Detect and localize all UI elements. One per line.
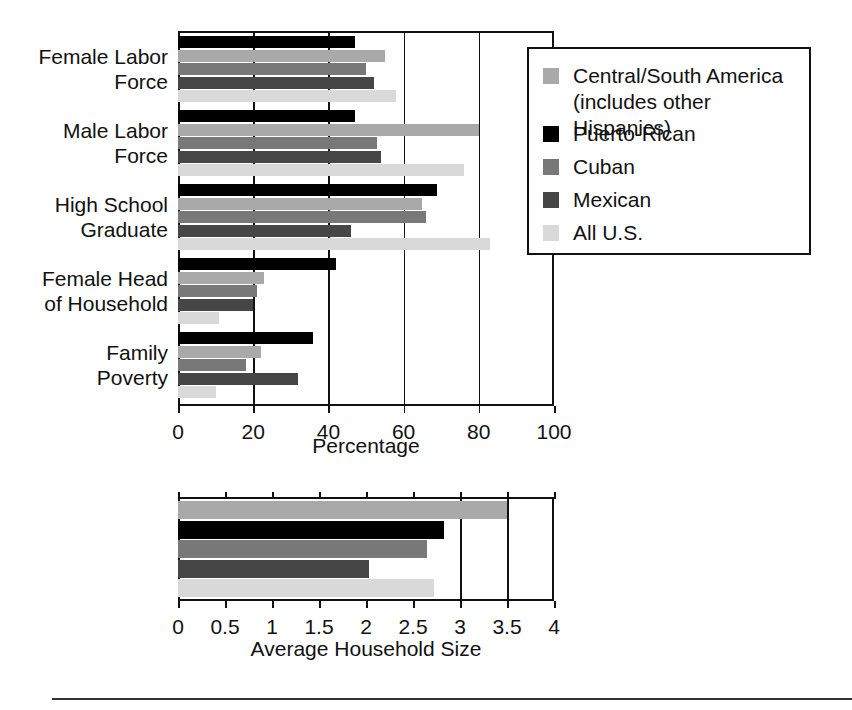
bar-4-3: [178, 373, 298, 385]
legend-label-mexican: Mexican: [573, 187, 651, 213]
household-bar-4: [178, 579, 434, 597]
x-tick-top-3.5: [507, 492, 509, 499]
footer-divider: [52, 698, 852, 700]
bar-4-2: [178, 359, 246, 371]
category-label-2: High School Graduate: [0, 192, 168, 242]
x-tick-100: [554, 406, 556, 413]
x-tick-60: [404, 406, 406, 413]
category-label-3: Female Head of Household: [0, 266, 168, 316]
x-tick-20: [253, 406, 255, 413]
bar-1-3: [178, 151, 381, 163]
legend-swatch-puerto_rican: [543, 126, 559, 142]
percentage-chart-x-axis-title: Percentage: [178, 435, 554, 456]
legend-swatch-central_south: [543, 68, 559, 84]
x-tick-2.5: [413, 601, 415, 608]
bar-3-0: [178, 258, 336, 270]
legend-label-puerto_rican: Puerto-Rican: [573, 121, 696, 147]
bar-3-3: [178, 299, 253, 311]
x-tick-0: [178, 601, 180, 608]
household-bar-0: [178, 501, 507, 519]
bar-2-1: [178, 198, 422, 210]
gridline-3.5: [507, 497, 509, 601]
bar-2-3: [178, 225, 351, 237]
category-label-4: Family Poverty: [0, 340, 168, 390]
x-tick-1.5: [319, 601, 321, 608]
bar-3-1: [178, 272, 264, 284]
legend-label-cuban: Cuban: [573, 154, 635, 180]
bar-1-4: [178, 164, 464, 176]
category-label-1: Male Labor Force: [0, 118, 168, 168]
x-tick-top-0.5: [225, 492, 227, 499]
bar-1-1: [178, 124, 479, 136]
x-ticklabel-4: 4: [524, 616, 584, 637]
x-tick-top-0: [178, 492, 180, 499]
x-tick-40: [328, 406, 330, 413]
household-bar-3: [178, 560, 369, 578]
x-tick-0.5: [225, 601, 227, 608]
legend-label-all_us: All U.S.: [573, 220, 643, 246]
bar-3-2: [178, 285, 257, 297]
x-tick-top-1.5: [319, 492, 321, 499]
household-size-chart-x-axis-title: Average Household Size: [178, 638, 554, 659]
chart-legend: Central/South America (includes other Hi…: [527, 47, 811, 255]
legend-item-puerto_rican[interactable]: Puerto-Rican: [543, 121, 801, 147]
household-bar-2: [178, 540, 427, 558]
legend-item-all_us[interactable]: All U.S.: [543, 220, 801, 246]
x-tick-top-2.5: [413, 492, 415, 499]
bar-2-0: [178, 184, 437, 196]
legend-swatch-mexican: [543, 192, 559, 208]
bar-3-4: [178, 312, 219, 324]
x-tick-3.5: [507, 601, 509, 608]
bar-0-2: [178, 63, 366, 75]
household-bar-1: [178, 521, 444, 539]
x-tick-1: [272, 601, 274, 608]
bar-0-1: [178, 50, 385, 62]
bar-0-4: [178, 90, 396, 102]
bar-2-4: [178, 238, 490, 250]
x-tick-top-4: [554, 492, 556, 499]
bar-2-2: [178, 211, 426, 223]
x-tick-2: [366, 601, 368, 608]
bar-1-2: [178, 137, 377, 149]
x-tick-top-3: [460, 492, 462, 499]
bar-4-0: [178, 332, 313, 344]
bar-1-0: [178, 110, 355, 122]
legend-swatch-all_us: [543, 225, 559, 241]
x-tick-top-1: [272, 492, 274, 499]
bar-0-3: [178, 77, 374, 89]
legend-item-cuban[interactable]: Cuban: [543, 154, 801, 180]
gridline-80: [479, 31, 481, 406]
bar-4-1: [178, 346, 261, 358]
x-tick-0: [178, 406, 180, 413]
x-tick-4: [554, 601, 556, 608]
x-tick-3: [460, 601, 462, 608]
x-tick-top-2: [366, 492, 368, 499]
category-label-0: Female Labor Force: [0, 44, 168, 94]
bar-0-0: [178, 36, 355, 48]
bar-4-4: [178, 386, 216, 398]
legend-swatch-cuban: [543, 159, 559, 175]
legend-item-mexican[interactable]: Mexican: [543, 187, 801, 213]
x-tick-80: [479, 406, 481, 413]
